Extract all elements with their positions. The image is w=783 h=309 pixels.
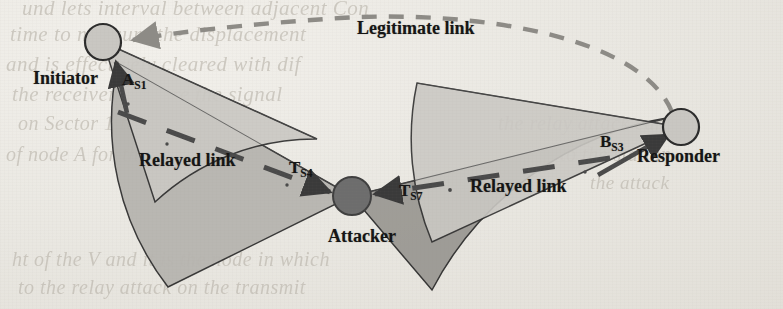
relayed-link-label-left: Relayed link: [139, 150, 236, 171]
beam-label-bs3-main: B: [600, 132, 611, 151]
beam-label-as1: AS1: [122, 70, 146, 92]
beam-label-bs3: BS3: [600, 132, 624, 154]
beam-label-ts4: TS4: [289, 158, 313, 180]
beam-label-ts7-main: T: [399, 181, 410, 200]
node-initiator[interactable]: [85, 24, 121, 60]
relayed-link-label-right: Relayed link: [470, 176, 567, 197]
beam-label-ts4-main: T: [289, 158, 300, 177]
node-responder[interactable]: [663, 109, 699, 145]
beam-label-ts4-sub: S4: [300, 167, 312, 180]
node-label-initiator: Initiator: [33, 68, 98, 89]
beam-label-as1-main: A: [122, 70, 134, 89]
legitimate-link-label: Legitimate link: [357, 18, 475, 39]
node-label-attacker: Attacker: [328, 226, 396, 247]
figure-canvas: und lets interval between adjacent Conti…: [0, 0, 783, 309]
beam-label-ts7: TS7: [399, 181, 423, 203]
beam-label-ts7-sub: S7: [410, 190, 422, 203]
beam-label-as1-sub: S1: [134, 79, 146, 92]
node-attacker[interactable]: [333, 177, 371, 215]
beam-label-bs3-sub: S3: [611, 141, 623, 154]
node-label-responder: Responder: [637, 146, 720, 167]
